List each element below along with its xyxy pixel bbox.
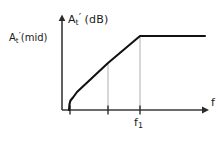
y-axis-label: At′ (dB)	[68, 12, 108, 27]
figure-container: At′ (dB) At′(mid) f f1	[0, 0, 223, 141]
midband-label-argument: (mid)	[21, 32, 48, 43]
x-tick-label-f1: f1	[134, 117, 143, 130]
gain-vs-frequency-plot	[0, 0, 223, 141]
x-axis	[62, 107, 209, 114]
x-axis-arrowhead	[202, 107, 209, 114]
y-axis-arrowhead	[59, 15, 66, 22]
y-axis	[59, 15, 66, 111]
f1-subscript: 1	[138, 121, 143, 130]
y-axis-label-symbol: A	[68, 13, 76, 26]
y-axis-label-unit: (dB)	[85, 13, 109, 26]
gain-response-curve	[69, 36, 205, 110]
guide-lines	[70, 36, 140, 110]
x-axis-label: f	[211, 97, 215, 108]
midband-label-symbol: A	[9, 32, 16, 43]
midband-level-label: At′(mid)	[9, 31, 48, 44]
y-axis-label-prime: ′	[79, 11, 81, 23]
